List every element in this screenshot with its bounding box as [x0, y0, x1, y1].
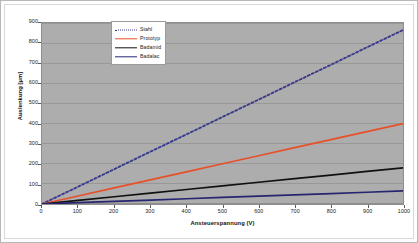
x-tick-label: 500 — [218, 209, 227, 214]
y-tick-label: 0 — [8, 202, 38, 207]
legend-label: Stahl — [140, 27, 152, 32]
x-tick-label: 900 — [363, 209, 372, 214]
legend-item-prototyp: Prototyp — [115, 34, 161, 43]
x-tick-mark — [368, 205, 369, 208]
y-tick-label: 900 — [8, 19, 38, 24]
x-tick-mark — [41, 205, 42, 208]
x-axis-title: Ansteuerspannung (V) — [41, 220, 404, 226]
x-tick-mark — [186, 205, 187, 208]
x-axis-ticks: 01002003004005006007008009001000 — [41, 205, 404, 219]
legend-item-stahl: Stahl — [115, 25, 161, 34]
chart-canvas: Auslenkung [µm] 010020030040050060070080… — [4, 4, 414, 239]
x-tick-mark — [331, 205, 332, 208]
x-tick-label: 800 — [327, 209, 336, 214]
x-tick-label: 700 — [290, 209, 299, 214]
chart-figure: Auslenkung [µm] 010020030040050060070080… — [0, 0, 418, 243]
x-tick-label: 100 — [73, 209, 82, 214]
y-tick-label: 200 — [8, 161, 38, 166]
x-tick-mark — [223, 205, 224, 208]
x-tick-label: 200 — [109, 209, 118, 214]
x-tick-label: 1000 — [398, 209, 410, 214]
plot-area — [41, 22, 404, 205]
y-tick-label: 700 — [8, 60, 38, 65]
x-tick-mark — [259, 205, 260, 208]
series-line-badamid — [42, 168, 403, 204]
data-series-layer — [42, 23, 403, 204]
y-tick-label: 300 — [8, 141, 38, 146]
x-tick-mark — [150, 205, 151, 208]
x-tick-mark — [295, 205, 296, 208]
legend-swatch-icon — [115, 43, 137, 52]
x-tick-label: 0 — [39, 209, 42, 214]
legend-label: Badalac — [140, 54, 159, 59]
legend-label: Badamid — [140, 45, 161, 50]
legend-swatch-icon — [115, 52, 137, 61]
legend-item-badalac: Badalac — [115, 52, 161, 61]
series-line-stahl — [42, 30, 403, 204]
x-tick-mark — [404, 205, 405, 208]
y-axis-ticks: 0100200300400500600700800900 — [5, 22, 38, 205]
legend-swatch-icon — [115, 34, 137, 43]
legend-item-badamid: Badamid — [115, 43, 161, 52]
series-line-prototyp — [42, 124, 403, 204]
y-tick-label: 500 — [8, 100, 38, 105]
y-tick-label: 100 — [8, 182, 38, 187]
x-tick-label: 300 — [145, 209, 154, 214]
legend-swatch-icon — [115, 25, 137, 34]
series-line-badalac — [42, 191, 403, 204]
chart-legend: StahlPrototypBadamidBadalac — [111, 21, 166, 65]
x-tick-mark — [114, 205, 115, 208]
legend-label: Prototyp — [140, 36, 160, 41]
x-tick-label: 400 — [182, 209, 191, 214]
y-tick-label: 400 — [8, 121, 38, 126]
x-tick-label: 600 — [254, 209, 263, 214]
y-tick-label: 800 — [8, 39, 38, 44]
x-tick-mark — [77, 205, 78, 208]
y-tick-label: 600 — [8, 80, 38, 85]
